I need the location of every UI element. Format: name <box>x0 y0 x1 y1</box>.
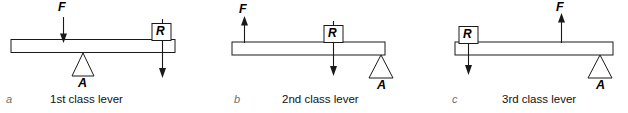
panel-caption: c 3rd class lever <box>452 91 576 107</box>
fulcrum-label: A <box>596 78 605 92</box>
panel-letter: c <box>452 93 464 105</box>
caption-text: 1st class lever <box>50 93 123 105</box>
fulcrum-triangle <box>72 53 94 76</box>
panel-letter: b <box>234 93 246 105</box>
force-label: F <box>556 0 564 14</box>
fulcrum-triangle <box>369 55 393 78</box>
lever-classes-figure: F R A a 1st class lever <box>0 0 628 113</box>
load-label: R <box>328 27 337 40</box>
fulcrum-label: A <box>377 78 386 92</box>
force-label: F <box>58 0 66 14</box>
panel-letter: a <box>6 93 18 105</box>
load-label: R <box>463 28 472 41</box>
load-label: R <box>156 25 165 38</box>
beam <box>232 42 385 55</box>
caption-text: 3rd class lever <box>502 93 576 105</box>
beam <box>11 40 175 53</box>
panel-third-class-lever: F R A c 3rd class lever <box>418 0 628 113</box>
panel-caption: b 2nd class lever <box>234 91 359 107</box>
force-arrow-up <box>241 16 248 43</box>
panel-first-class-lever: F R A a 1st class lever <box>0 0 210 113</box>
fulcrum-label: A <box>78 76 87 90</box>
beam <box>455 42 613 55</box>
panel-caption: a 1st class lever <box>6 91 123 107</box>
force-label: F <box>239 2 247 16</box>
panel-second-class-lever: F R A b 2nd class lever <box>210 0 420 113</box>
force-arrow-up <box>558 13 565 43</box>
first-class-lever-diagram <box>0 0 210 95</box>
caption-text: 2nd class lever <box>282 93 359 105</box>
fulcrum-triangle <box>588 55 612 78</box>
